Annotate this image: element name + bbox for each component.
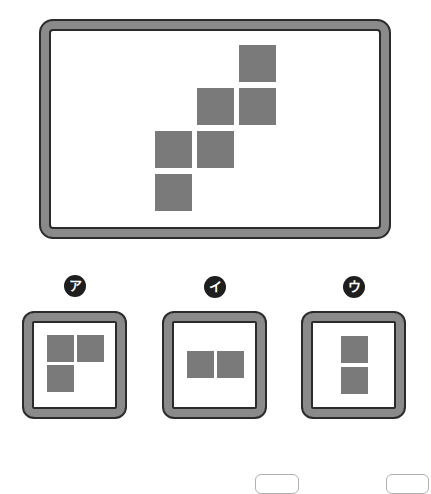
option-frame[interactable] bbox=[162, 311, 267, 419]
option-square bbox=[217, 351, 244, 378]
option-square bbox=[341, 336, 368, 363]
option-square bbox=[341, 367, 368, 394]
option-square bbox=[187, 351, 214, 378]
main-square bbox=[155, 131, 192, 168]
answer-box[interactable] bbox=[386, 474, 429, 494]
option-badge: ア bbox=[64, 275, 86, 297]
option-badge: ウ bbox=[343, 276, 365, 298]
answer-box[interactable] bbox=[255, 474, 299, 494]
option-square bbox=[47, 335, 74, 362]
main-square bbox=[155, 174, 192, 211]
main-figure-frame bbox=[39, 19, 391, 239]
option-frame[interactable] bbox=[22, 311, 127, 419]
option-badge: イ bbox=[204, 276, 226, 298]
option-square bbox=[77, 335, 104, 362]
main-square bbox=[239, 45, 276, 82]
main-square bbox=[197, 88, 234, 125]
option-square bbox=[47, 365, 74, 392]
main-square bbox=[197, 131, 234, 168]
option-frame[interactable] bbox=[301, 311, 406, 419]
main-square bbox=[239, 88, 276, 125]
